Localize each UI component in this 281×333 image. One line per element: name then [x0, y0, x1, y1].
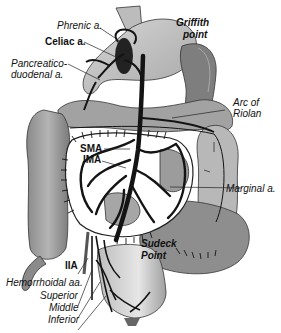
label-griffith-point-line2: point — [183, 29, 207, 40]
label-superior: Superior — [40, 290, 78, 301]
label-ima: IMA — [83, 154, 101, 165]
celiac-trunk — [115, 38, 133, 74]
label-arc-of-riolan-line1: Arc of — [233, 97, 259, 108]
label-inferior: Inferior — [48, 314, 79, 325]
label-celiac-artery: Celiac a. — [45, 36, 86, 47]
label-sudeck-point-line2: Point — [141, 250, 166, 261]
label-hemorrhoidal-arteries: Hemorrhoidal aa. — [6, 277, 83, 288]
label-pancreaticoduodenal-line2: duodenal a. — [11, 69, 63, 80]
label-griffith-point-line1: Griffith — [176, 17, 209, 28]
label-sudeck-point-line1: Sudeck — [141, 238, 177, 249]
iia-vessel — [84, 232, 88, 274]
label-pancreaticoduodenal-line1: Pancreatico- — [11, 58, 67, 69]
label-sma: SMA — [80, 143, 102, 154]
label-marginal-artery: Marginal a. — [226, 183, 275, 194]
label-phrenic-artery: Phrenic a. — [57, 20, 102, 31]
ascending-colon — [27, 110, 70, 259]
label-arc-of-riolan-line2: Riolan — [233, 108, 261, 119]
label-iia: IIA — [65, 260, 78, 271]
label-middle: Middle — [49, 302, 78, 313]
